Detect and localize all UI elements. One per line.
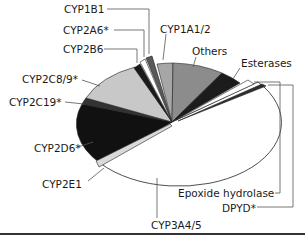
leader-cyp2c8-9 bbox=[82, 80, 100, 86]
label-epoxide-hydrolase: Epoxide hydrolase bbox=[178, 187, 274, 199]
label-cyp3a4-5: CYP3A4/5 bbox=[151, 219, 202, 231]
leader-cyp1b1 bbox=[107, 9, 149, 54]
label-others: Others bbox=[192, 45, 227, 57]
label-cyp2d6: CYP2D6* bbox=[34, 142, 81, 154]
label-cyp1b1: CYP1B1 bbox=[64, 3, 104, 15]
leader-cyp2b6 bbox=[104, 49, 137, 63]
leader-esterases bbox=[233, 68, 240, 79]
label-dpyd: DPYD* bbox=[222, 202, 256, 214]
leader-cyp2c19 bbox=[65, 102, 84, 104]
footer-rule bbox=[0, 233, 305, 235]
label-cyp2c19: CYP2C19* bbox=[9, 96, 62, 108]
label-cyp2b6: CYP2B6 bbox=[63, 43, 104, 55]
label-cyp2c8-9: CYP2C8/9* bbox=[22, 73, 78, 85]
pie-chart: CYP1B1 CYP2A6* CYP2B6 CYP1A1/2 Others Es… bbox=[0, 0, 305, 242]
leader-cyp2e1 bbox=[88, 168, 104, 181]
label-cyp1a1-2: CYP1A1/2 bbox=[160, 23, 211, 35]
label-esterases: Esterases bbox=[241, 57, 292, 69]
leader-cyp2a6 bbox=[114, 30, 144, 57]
leader-cyp1a1-2 bbox=[163, 34, 166, 60]
label-cyp2e1: CYP2E1 bbox=[42, 178, 82, 190]
label-cyp2a6: CYP2A6* bbox=[63, 24, 109, 36]
